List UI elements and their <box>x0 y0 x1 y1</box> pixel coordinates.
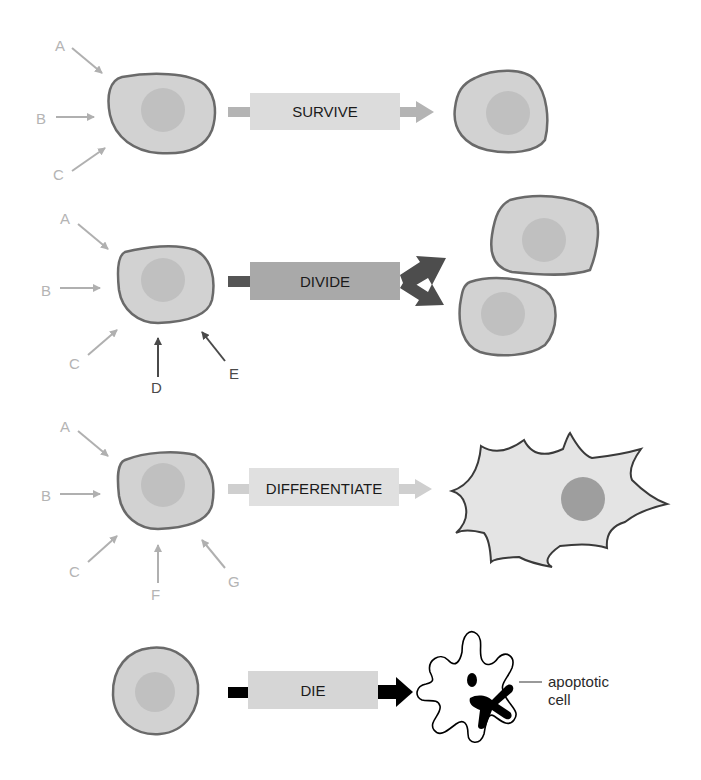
result-cell-icon <box>455 71 548 153</box>
signal-label-a: A <box>60 418 70 435</box>
row-die: DIE apoptotic cell <box>113 632 609 743</box>
row-divide: A B C D E DIVIDE <box>41 196 598 396</box>
arrow-shaft <box>228 107 250 117</box>
arrow-shaft <box>400 107 417 117</box>
arrow-shaft <box>228 687 250 698</box>
signal-label-a: A <box>60 210 70 227</box>
cell-icon <box>113 648 198 735</box>
arrow-head-icon <box>416 101 434 123</box>
outcome-label-differentiate: DIFFERENTIATE <box>266 480 382 497</box>
arrow-shaft <box>378 685 398 699</box>
arrow-icon <box>78 431 108 456</box>
row-survive: A B C SURVIVE <box>36 37 547 183</box>
cell-icon <box>118 452 214 529</box>
annotation-cell: cell <box>548 691 571 708</box>
signal-label-g: G <box>228 573 240 590</box>
arrow-shaft <box>228 484 250 494</box>
arrow-icon <box>78 224 108 249</box>
outcome-label-divide: DIVIDE <box>300 273 350 290</box>
signal-label-c: C <box>53 166 64 183</box>
signal-arrows: A B C <box>36 37 105 183</box>
arrow-icon <box>72 148 105 171</box>
arrow-icon <box>88 536 117 562</box>
cell-icon <box>118 246 214 323</box>
signal-label-a: A <box>55 37 65 54</box>
arrow-icon <box>202 332 225 361</box>
arrow-icon <box>88 330 117 355</box>
arrow-icon <box>202 540 225 568</box>
daughter-cell-icon <box>491 196 598 275</box>
signal-label-e: E <box>229 365 239 382</box>
signal-label-b: B <box>41 487 51 504</box>
arrow-icon <box>72 48 102 73</box>
daughter-cell-icon <box>460 278 556 355</box>
signal-label-f: F <box>151 586 160 603</box>
cell-fate-diagram: A B C SURVIVE A B C D <box>0 0 701 780</box>
arrow-shaft <box>399 484 416 494</box>
arrow-shaft <box>228 276 250 287</box>
apoptotic-cell-icon <box>417 632 516 743</box>
outcome-label-die: DIE <box>300 682 325 699</box>
signal-label-b: B <box>41 282 51 299</box>
signal-label-d: D <box>151 379 162 396</box>
differentiated-cell-icon <box>452 433 667 567</box>
signal-label-c: C <box>69 563 80 580</box>
row-differentiate: A B C F G DIFFERENTIATE <box>41 418 667 603</box>
annotation-apoptotic: apoptotic <box>548 673 609 690</box>
outcome-label-survive: SURVIVE <box>292 103 358 120</box>
signal-label-c: C <box>69 355 80 372</box>
split-arrow-icon <box>400 256 446 306</box>
arrow-head-icon <box>415 479 432 499</box>
arrow-head-icon <box>396 677 413 707</box>
signal-label-b: B <box>36 110 46 127</box>
cell-icon <box>109 74 216 153</box>
